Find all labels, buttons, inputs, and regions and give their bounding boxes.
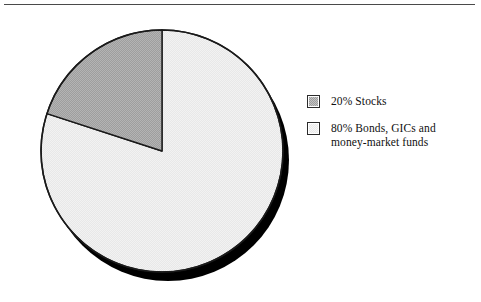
pie-chart-svg <box>30 18 296 286</box>
pie-chart-figure: 20% Stocks 80% Bonds, GICs and money-mar… <box>0 0 481 302</box>
legend-label-stocks: 20% Stocks <box>331 94 387 108</box>
legend-item-stocks[interactable]: 20% Stocks <box>307 94 472 108</box>
pie-chart-graphic <box>30 18 296 286</box>
stocks-swatch-icon <box>307 95 320 108</box>
bonds-swatch-icon <box>307 122 320 135</box>
chart-legend: 20% Stocks 80% Bonds, GICs and money-mar… <box>307 94 472 162</box>
legend-item-bonds[interactable]: 80% Bonds, GICs and money-market funds <box>307 121 472 149</box>
legend-label-bonds: 80% Bonds, GICs and money-market funds <box>331 121 436 149</box>
